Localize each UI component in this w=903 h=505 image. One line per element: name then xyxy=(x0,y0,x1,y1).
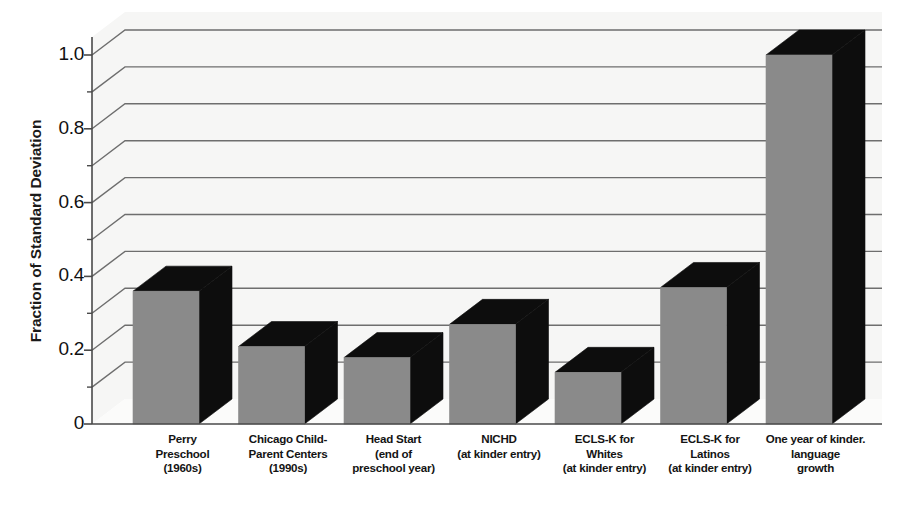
bar-group xyxy=(344,333,443,424)
x-axis-tick-label: One year of kinder.languagegrowth xyxy=(751,432,881,476)
bar-front-face xyxy=(555,372,621,424)
y-axis-tick-label: 0.4 xyxy=(28,264,84,286)
y-axis-tick-label: 0.6 xyxy=(28,191,84,213)
bar-front-face xyxy=(239,347,305,424)
bar-group xyxy=(661,262,760,424)
y-axis-tick-labels: 1.00.80.60.40.20 xyxy=(20,0,84,505)
x-axis-tick-label-line: language xyxy=(751,447,881,462)
bar-side-face xyxy=(832,30,865,424)
y-axis-tick-label: 0 xyxy=(28,412,84,434)
bar-group xyxy=(239,322,338,424)
bar-group xyxy=(133,266,232,424)
x-axis-tick-label-line: preschool year) xyxy=(329,461,459,476)
bar-group xyxy=(450,299,549,424)
bar-chart: Fraction of Standard Deviation 1.00.80.6… xyxy=(0,0,903,505)
bar-front-face xyxy=(661,287,727,424)
x-axis-tick-label-line: One year of kinder. xyxy=(751,432,881,447)
bar-front-face xyxy=(133,291,199,424)
y-axis-tick-label: 1.0 xyxy=(28,43,84,65)
y-axis-tick-label: 0.8 xyxy=(28,117,84,139)
x-axis-tick-label-line: growth xyxy=(751,461,881,476)
x-axis-tick-labels: PerryPreschool(1960s)Chicago Child-Paren… xyxy=(0,432,903,505)
bar-front-face xyxy=(344,358,410,424)
bar-side-face xyxy=(199,266,232,424)
bar-group xyxy=(766,30,865,424)
plot-svg xyxy=(92,8,882,438)
plot-area xyxy=(92,8,882,428)
bar-front-face xyxy=(450,324,516,424)
bar-front-face xyxy=(766,55,832,424)
y-axis-tick-label: 0.2 xyxy=(28,338,84,360)
bar-side-face xyxy=(727,262,760,424)
